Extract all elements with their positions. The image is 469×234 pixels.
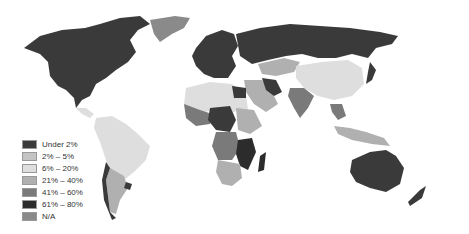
- legend-label: 61% – 80%: [42, 200, 83, 209]
- region-drc: [212, 132, 240, 160]
- legend-label: 21% – 40%: [42, 176, 83, 185]
- legend-item-41-60: 41% – 60%: [22, 186, 83, 198]
- region-russia: [236, 24, 398, 64]
- legend-swatch: [22, 176, 37, 185]
- region-japan: [366, 62, 376, 84]
- region-southern-africa: [216, 160, 242, 186]
- region-australia: [350, 150, 404, 192]
- legend-swatch: [22, 152, 37, 161]
- legend-label: N/A: [42, 212, 55, 221]
- legend-item-21-40: 21% – 40%: [22, 174, 83, 186]
- region-egypt: [232, 86, 246, 98]
- region-europe: [192, 30, 238, 78]
- map-legend: Under 2% 2% – 5% 6% – 20% 21% – 40% 41% …: [22, 138, 83, 222]
- legend-label: Under 2%: [42, 140, 78, 149]
- region-east-africa: [236, 108, 262, 134]
- legend-swatch: [22, 164, 37, 173]
- region-north-america: [24, 16, 150, 108]
- legend-item-6-20: 6% – 20%: [22, 162, 83, 174]
- region-southeast-asia: [330, 104, 346, 120]
- legend-swatch: [22, 140, 37, 149]
- legend-label: 41% – 60%: [42, 188, 83, 197]
- region-madagascar: [258, 152, 266, 172]
- legend-swatch: [22, 188, 37, 197]
- region-new-zealand: [408, 186, 426, 206]
- region-indonesia: [334, 126, 390, 146]
- legend-item-na: N/A: [22, 210, 83, 222]
- legend-label: 2% – 5%: [42, 152, 74, 161]
- legend-label: 6% – 20%: [42, 164, 78, 173]
- legend-item-under-2: Under 2%: [22, 138, 83, 150]
- legend-swatch: [22, 200, 37, 209]
- region-greenland: [150, 16, 190, 42]
- legend-item-61-80: 61% – 80%: [22, 198, 83, 210]
- region-central-america: [76, 108, 94, 118]
- legend-item-2-5: 2% – 5%: [22, 150, 83, 162]
- legend-swatch: [22, 212, 37, 221]
- region-india: [288, 88, 314, 118]
